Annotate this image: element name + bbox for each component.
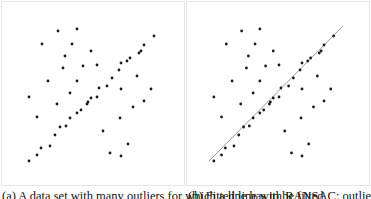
data-point [76,112,79,115]
data-point [269,101,272,104]
data-point [258,112,261,115]
data-point [332,35,335,38]
data-point [126,60,129,63]
data-point [239,103,242,106]
data-point [301,62,304,65]
data-point [127,143,130,146]
scatter-points-outliers [28,28,156,163]
data-point [57,30,60,33]
data-point [307,143,310,146]
data-point [28,96,31,99]
data-point [96,96,99,99]
data-point [150,88,153,91]
data-point [318,52,321,55]
data-point [36,154,39,157]
data-point [278,64,281,67]
data-point [90,97,93,100]
data-point [80,109,83,112]
data-point [36,116,39,119]
data-point [59,126,62,129]
data-point [65,125,68,128]
data-point [54,134,57,137]
data-point [258,80,261,83]
data-point [109,152,112,155]
data-point [143,100,146,103]
data-point [225,43,228,46]
data-point [220,116,223,119]
data-point [96,64,99,67]
data-point [316,75,319,78]
data-point [129,57,132,60]
data-point [47,80,50,83]
data-point [231,80,234,83]
data-point [87,101,90,104]
fitted-line [209,26,343,161]
data-point [120,155,123,158]
data-point [28,160,31,163]
data-point [69,117,72,120]
data-point [76,28,79,31]
data-point [212,96,215,99]
data-point [119,117,122,120]
data-point [272,50,275,53]
data-point [323,100,326,103]
data-point [118,69,121,72]
data-point [292,77,295,80]
data-point [111,77,114,80]
data-point [49,145,52,148]
data-point [224,147,227,150]
data-point [71,43,74,46]
data-point [272,97,275,100]
data-point [300,117,303,120]
data-point [252,92,255,95]
data-point [247,55,250,58]
data-point [278,96,281,99]
data-point [76,80,79,83]
data-point [136,75,139,78]
data-point [41,43,44,46]
data-point [138,52,141,55]
data-point [299,69,302,72]
data-point [64,55,67,58]
data-point [140,50,143,53]
data-point [120,62,123,65]
data-point [106,85,109,88]
data-point [240,30,243,33]
data-point [283,130,286,133]
data-point [69,92,72,95]
data-point [212,160,215,163]
data-point [287,85,290,88]
caption-b: (b) Fitted line with RANSAC; outliers ha… [188,189,371,199]
data-point [280,87,283,90]
data-point [237,134,240,137]
data-point [252,117,255,120]
data-point [301,88,304,91]
data-point [120,88,123,91]
data-point [245,67,248,70]
scatter-points-with-fit [212,28,335,163]
data-point [262,109,265,112]
data-point [62,67,65,70]
data-point [312,106,315,109]
data-point [329,88,332,91]
data-point [132,106,135,109]
data-point [290,152,293,155]
ransac-fitted-line [209,26,343,161]
data-point [98,87,101,90]
data-point [40,147,43,150]
data-point [233,145,236,148]
data-point [301,155,304,158]
data-point [306,60,309,63]
data-point [82,65,85,68]
data-point [323,44,326,47]
data-point [102,130,105,133]
data-point [143,44,146,47]
data-point [90,50,93,53]
data-point [254,43,257,46]
data-point [264,65,267,68]
scatter-plots [0,0,371,199]
data-point [153,35,156,38]
data-point [258,28,261,31]
data-point [242,126,245,129]
data-point [248,125,251,128]
